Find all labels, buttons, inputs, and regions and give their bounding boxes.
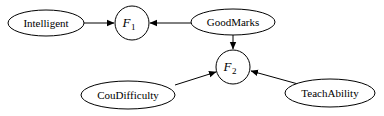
- edge-teachability-to-f2: [251, 71, 298, 84]
- node-intelligent-label: Intelligent: [23, 17, 68, 29]
- factor-graph: Intelligent F1 GoodMarks F2 CouDifficult…: [0, 0, 384, 116]
- node-coudifficulty: CouDifficulty: [81, 81, 175, 109]
- node-f2: F2: [216, 50, 250, 84]
- node-coudifficulty-label: CouDifficulty: [97, 89, 159, 101]
- node-teachability: TeachAbility: [285, 79, 375, 107]
- node-intelligent: Intelligent: [8, 10, 84, 36]
- node-f1: F1: [115, 6, 149, 40]
- edge-coudifficulty-to-f2: [175, 72, 216, 85]
- node-teachability-label: TeachAbility: [301, 87, 359, 99]
- node-goodmarks-label: GoodMarks: [207, 16, 260, 28]
- node-goodmarks: GoodMarks: [191, 9, 275, 35]
